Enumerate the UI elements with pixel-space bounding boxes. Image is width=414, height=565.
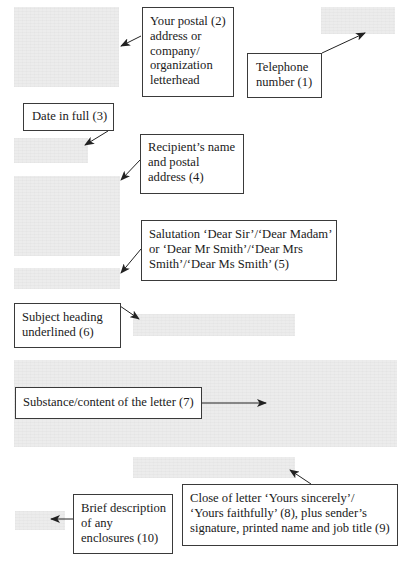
arrow-recipient bbox=[121, 160, 140, 180]
arrow-date bbox=[85, 131, 108, 145]
date-block bbox=[14, 138, 88, 163]
annotation-subject-line: underlined (6) bbox=[22, 325, 113, 340]
closing-signature-block bbox=[133, 457, 295, 478]
telephone-block bbox=[321, 7, 395, 34]
annotation-subject: Subject heading underlined (6) bbox=[14, 303, 121, 348]
annotation-letterhead-line: company/ bbox=[150, 44, 226, 59]
annotation-letterhead-line: organization bbox=[150, 58, 226, 73]
subject-heading-block bbox=[133, 314, 295, 336]
annotation-salutation-line: Salutation ‘Dear Sir’/‘Dear Madam’ bbox=[149, 227, 329, 242]
annotation-salutation-line: or ‘Dear Mr Smith’/‘Dear Mrs bbox=[149, 242, 329, 257]
annotation-enclosures-line: enclosures (10) bbox=[81, 531, 165, 546]
annotation-enclosures-line: of any bbox=[81, 516, 165, 531]
annotation-date: Date in full (3) bbox=[23, 103, 114, 131]
annotation-enclosures-line: Brief description bbox=[81, 501, 165, 516]
annotation-close-line: Close of letter ‘Yours sincerely’/ bbox=[190, 491, 390, 506]
recipient-address-block bbox=[14, 176, 120, 256]
letterhead-block bbox=[14, 7, 119, 87]
annotation-recipient: Recipient’s name and postal address (4) bbox=[140, 134, 244, 194]
annotation-recipient-line: Recipient’s name bbox=[148, 140, 236, 155]
annotation-subject-line: Subject heading bbox=[22, 310, 113, 325]
salutation-block bbox=[14, 268, 120, 289]
annotation-recipient-line: and postal bbox=[148, 155, 236, 170]
annotation-telephone-line: Telephone bbox=[256, 60, 313, 75]
annotation-body-line: Substance/content of the letter (7) bbox=[23, 395, 194, 410]
arrow-salutation bbox=[121, 249, 141, 273]
annotation-date-line: Date in full (3) bbox=[32, 109, 105, 124]
annotation-letterhead: Your postal (2) address or company/ orga… bbox=[142, 7, 234, 97]
annotation-close: Close of letter ‘Yours sincerely’/ ‘Your… bbox=[182, 484, 398, 546]
annotation-letterhead-line: letterhead bbox=[150, 73, 226, 88]
annotation-body: Substance/content of the letter (7) bbox=[15, 387, 202, 419]
annotation-close-line: ‘Yours faithfully’ (8), plus sender’s bbox=[190, 506, 390, 521]
annotation-salutation: Salutation ‘Dear Sir’/‘Dear Madam’ or ‘D… bbox=[141, 220, 337, 281]
annotation-salutation-line: Smith’/‘Dear Ms Smith’ (5) bbox=[149, 257, 329, 272]
annotation-telephone-line: number (1) bbox=[256, 75, 313, 90]
annotation-enclosures: Brief description of any enclosures (10) bbox=[73, 494, 173, 554]
annotation-letterhead-line: address or bbox=[150, 29, 226, 44]
annotation-recipient-line: address (4) bbox=[148, 170, 236, 185]
arrow-telephone bbox=[322, 33, 365, 53]
annotation-close-line: signature, printed name and job title (9… bbox=[190, 521, 390, 536]
annotation-telephone: Telephone number (1) bbox=[247, 53, 322, 98]
enclosures-block bbox=[15, 511, 65, 530]
arrow-letterhead bbox=[121, 36, 141, 46]
annotation-letterhead-line: Your postal (2) bbox=[150, 14, 226, 29]
